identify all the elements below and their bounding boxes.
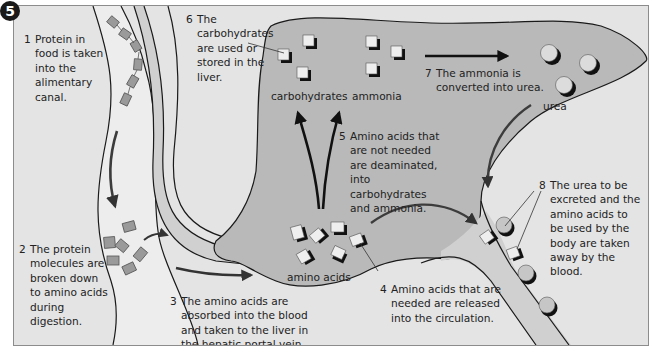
- tag-carbohydrates: carbohydrates: [271, 90, 348, 102]
- tag-ammonia: ammonia: [352, 90, 402, 102]
- tag-amino-acids: amino acids: [287, 271, 351, 283]
- step-number-badge: 5: [0, 1, 20, 21]
- label-step-7: 7 The ammonia is converted into urea.: [425, 66, 545, 95]
- label-step-6: 6 The carbohydrates are used or stored i…: [186, 12, 284, 84]
- tag-urea: urea: [543, 100, 567, 112]
- label-step-3: 3 The amino acids are absorbed into the …: [170, 294, 320, 346]
- diagram-frame: 1 Protein in food is taken into the alim…: [13, 5, 649, 346]
- label-step-8: 8 The urea to be excreted and the amino …: [539, 178, 643, 279]
- label-step-4: 4 Amino acids that are needed are releas…: [380, 282, 510, 325]
- label-step-2: 2 The protein molecules are broken down …: [19, 242, 111, 328]
- label-step-1: 1 Protein in food is taken into the alim…: [24, 32, 104, 104]
- protein-metabolism-diagram: 5: [0, 0, 651, 347]
- label-step-5: 5 Amino acids that are not needed are de…: [339, 129, 449, 215]
